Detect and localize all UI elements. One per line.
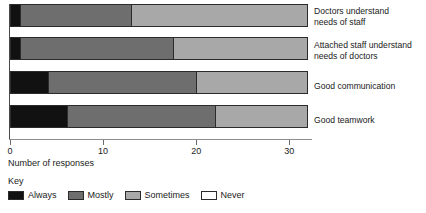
legend-title: Key (8, 176, 245, 186)
plot-area (10, 4, 308, 135)
x-axis-line (9, 139, 312, 140)
x-tick (10, 140, 11, 145)
legend-swatch-icon (201, 191, 217, 200)
bar-segment-always[interactable] (11, 5, 20, 26)
bar-segment-sometimes[interactable] (131, 5, 307, 26)
x-tick (103, 140, 104, 145)
category-label: Doctors understand needs of staff (314, 6, 389, 28)
bar-row (10, 105, 308, 128)
bar-segment-mostly[interactable] (20, 5, 131, 26)
stacked-bar[interactable] (10, 71, 308, 94)
x-tick-label: 20 (191, 146, 201, 156)
legend-label: Never (221, 190, 245, 200)
bar-segment-mostly[interactable] (67, 106, 215, 127)
bar-segment-mostly[interactable] (48, 72, 196, 93)
bar-segment-mostly[interactable] (20, 38, 173, 59)
bar-segment-always[interactable] (11, 72, 48, 93)
stacked-bar-chart: 0102030 Number of responses Doctors unde… (0, 0, 426, 213)
legend-item[interactable]: Mostly (68, 190, 114, 200)
x-tick-label: 30 (284, 146, 294, 156)
legend-items: AlwaysMostlySometimesNever (8, 190, 245, 200)
bar-segment-always[interactable] (11, 38, 20, 59)
legend: Key AlwaysMostlySometimesNever (8, 176, 245, 200)
category-label: Good communication (314, 81, 395, 92)
legend-label: Mostly (88, 190, 114, 200)
bar-segment-sometimes[interactable] (196, 72, 307, 93)
legend-swatch-icon (8, 191, 24, 200)
legend-item[interactable]: Always (8, 190, 57, 200)
legend-swatch-icon (68, 191, 84, 200)
x-tick-label: 0 (7, 146, 12, 156)
legend-swatch-icon (125, 191, 141, 200)
bar-row (10, 71, 308, 94)
legend-item[interactable]: Never (201, 190, 245, 200)
x-axis-title: Number of responses (8, 158, 94, 168)
stacked-bar[interactable] (10, 4, 308, 27)
category-label: Good teamwork (314, 115, 375, 126)
x-tick (289, 140, 290, 145)
bar-segment-always[interactable] (11, 106, 67, 127)
x-tick-label: 10 (98, 146, 108, 156)
x-tick (196, 140, 197, 145)
bar-row (10, 4, 308, 27)
bar-segment-sometimes[interactable] (173, 38, 307, 59)
stacked-bar[interactable] (10, 105, 308, 128)
legend-item[interactable]: Sometimes (125, 190, 190, 200)
legend-label: Always (28, 190, 57, 200)
stacked-bar[interactable] (10, 37, 308, 60)
category-label: Attached staff understand needs of docto… (314, 40, 412, 62)
legend-label: Sometimes (145, 190, 190, 200)
bar-row (10, 37, 308, 60)
bar-segment-sometimes[interactable] (215, 106, 308, 127)
